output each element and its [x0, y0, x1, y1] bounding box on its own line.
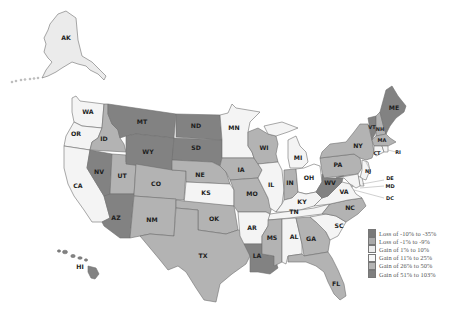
state-label-ga: GA — [306, 235, 316, 242]
state-label-nv: NV — [94, 168, 104, 175]
state-label-ms: MS — [267, 234, 278, 241]
state-label-mi: MI — [294, 154, 302, 161]
state-label-ok: OK — [209, 215, 219, 222]
state-label-az: AZ — [111, 214, 121, 221]
state-ak[interactable] — [42, 11, 106, 80]
state-label-ne: NE — [195, 171, 204, 178]
state-label-co: CO — [151, 180, 161, 187]
legend-label: Loss of -1% to -9% — [379, 238, 430, 245]
state-ny[interactable] — [320, 124, 374, 160]
state-label-va: VA — [339, 188, 348, 195]
legend-item: Gain of 26% to 50% — [368, 262, 449, 270]
state-label-mt: MT — [137, 118, 148, 125]
state-label-ma: MA — [378, 137, 387, 143]
state-label-sc: SC — [335, 222, 344, 229]
state-label-mo: MO — [246, 190, 257, 197]
legend-item: Gain of 11% to 25% — [368, 254, 449, 262]
state-label-id: ID — [100, 135, 107, 142]
legend-swatch — [368, 237, 376, 245]
state-label-wy: WY — [142, 148, 154, 155]
state-label-il: IL — [268, 181, 274, 188]
legend-swatch — [368, 254, 376, 262]
state-label-ca: CA — [73, 182, 83, 189]
state-label-nm: NM — [146, 216, 157, 223]
state-label-nh: NH — [376, 126, 384, 132]
state-label-dc: DC — [386, 195, 394, 201]
state-label-in: IN — [286, 179, 293, 186]
state-label-ut: UT — [117, 172, 127, 179]
state-label-nc: NC — [345, 204, 355, 211]
state-label-hi: HI — [76, 263, 83, 270]
state-label-al: AL — [290, 233, 299, 240]
state-label-wa: WA — [82, 108, 94, 115]
legend-label: Gain of 1% to 10% — [379, 246, 429, 253]
legend-item: Gain of 51% to 103% — [368, 270, 449, 278]
state-label-mn: MN — [228, 124, 239, 131]
state-label-ky: KY — [297, 198, 307, 205]
state-label-sd: SD — [191, 144, 201, 151]
state-dc[interactable] — [351, 185, 353, 187]
legend-label: Gain of 51% to 103% — [379, 271, 436, 278]
aleutian-islands — [11, 77, 39, 83]
state-label-ny: NY — [353, 142, 363, 149]
state-label-wv: WV — [324, 179, 336, 186]
state-label-md: MD — [385, 183, 394, 189]
legend-item: Gain of 1% to 10% — [368, 245, 449, 253]
state-label-nj: NJ — [365, 168, 371, 174]
state-fl[interactable] — [288, 252, 346, 300]
legend-label: Loss of -10% to -35% — [379, 230, 436, 237]
state-label-ar: AR — [247, 224, 257, 231]
state-label-ia: IA — [237, 166, 244, 173]
state-label-ak: AK — [61, 34, 71, 41]
state-label-ks: KS — [201, 189, 210, 196]
state-label-ri: RI — [395, 149, 401, 155]
state-label-la: LA — [253, 252, 262, 259]
state-label-ct: CT — [373, 150, 381, 156]
legend-item: Loss of -1% to -9% — [368, 237, 449, 245]
state-label-me: ME — [389, 104, 399, 111]
state-label-tx: TX — [199, 252, 208, 259]
state-label-de: DE — [386, 175, 394, 181]
legend-swatch — [368, 245, 376, 253]
legend-swatch — [368, 270, 376, 278]
state-label-pa: PA — [334, 161, 343, 168]
legend-item: Loss of -10% to -35% — [368, 229, 449, 237]
state-label-wi: WI — [259, 144, 268, 151]
state-label-tn: TN — [289, 208, 298, 215]
legend-label: Gain of 11% to 25% — [379, 254, 432, 261]
state-label-fl: FL — [332, 280, 340, 287]
legend-swatch — [368, 229, 376, 237]
state-label-oh: OH — [304, 174, 314, 181]
legend: Loss of -10% to -35%Loss of -1% to -9%Ga… — [368, 229, 449, 278]
state-label-or: OR — [71, 130, 81, 137]
legend-label: Gain of 26% to 50% — [379, 262, 432, 269]
legend-swatch — [368, 262, 376, 270]
state-label-nd: ND — [191, 122, 201, 129]
